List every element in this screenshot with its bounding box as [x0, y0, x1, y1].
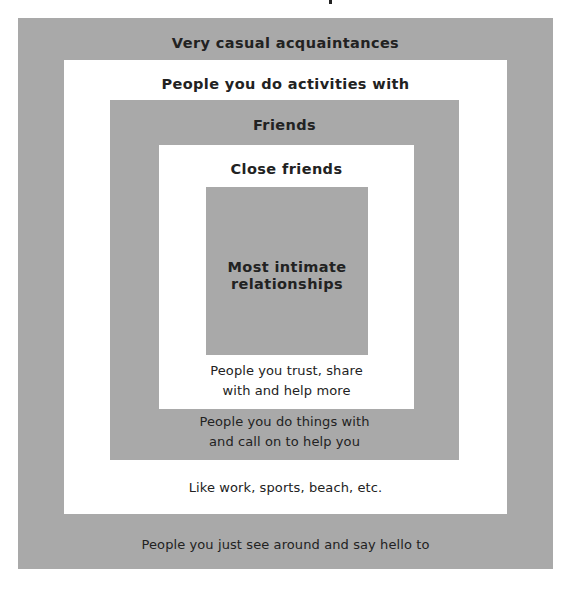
level-4-description-line-1: People you trust, share	[159, 361, 414, 381]
level-5-title-line-2: relationships	[206, 276, 368, 293]
level-3-title: Friends	[110, 117, 459, 133]
level-5-title: Most intimate relationships	[206, 259, 368, 293]
level-2-title: People you do activities with	[64, 76, 507, 92]
level-1-title: Very casual acquaintances	[18, 35, 553, 51]
level-2-description: Like work, sports, beach, etc.	[64, 478, 507, 498]
level-1-description: People you just see around and say hello…	[18, 535, 553, 555]
level-4-description: People you trust, share with and help mo…	[159, 361, 414, 401]
level-3-description: People you do things with and call on to…	[110, 412, 459, 452]
level-5-title-line-1: Most intimate	[206, 259, 368, 276]
level-4-description-line-2: with and help more	[159, 381, 414, 401]
cropped-title-fragment	[329, 0, 332, 4]
level-most-intimate: Most intimate relationships	[206, 187, 368, 355]
level-4-title: Close friends	[159, 161, 414, 177]
level-3-description-line-2: and call on to help you	[110, 432, 459, 452]
level-3-description-line-1: People you do things with	[110, 412, 459, 432]
